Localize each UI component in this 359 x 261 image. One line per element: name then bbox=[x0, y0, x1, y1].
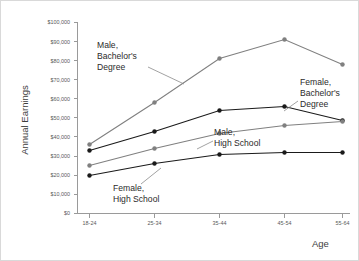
x-tick-label: 55-64 bbox=[336, 220, 350, 226]
annotation-label: Female, bbox=[300, 77, 331, 87]
annotation-label: High School bbox=[113, 194, 159, 204]
y-tick-label: $90,000 bbox=[51, 39, 71, 45]
data-point bbox=[87, 163, 91, 167]
data-point bbox=[87, 173, 91, 177]
data-point bbox=[87, 142, 91, 146]
y-tick-label: $10,000 bbox=[51, 191, 71, 197]
y-tick-label: $20,000 bbox=[51, 172, 71, 178]
data-point bbox=[152, 146, 156, 150]
data-point bbox=[340, 150, 344, 154]
data-point bbox=[87, 148, 91, 152]
series-female-highschool bbox=[87, 150, 344, 177]
annotation-leader-line bbox=[197, 141, 213, 149]
data-point bbox=[152, 161, 156, 165]
x-tick-label: 35-44 bbox=[213, 220, 227, 226]
y-tick-label: $60,000 bbox=[51, 96, 71, 102]
annotation-leader-line bbox=[148, 67, 184, 84]
data-point bbox=[282, 123, 286, 127]
data-point bbox=[152, 100, 156, 104]
annotation-label: Bachelor's bbox=[97, 51, 137, 61]
data-point bbox=[282, 37, 286, 41]
y-axis-group: $100,000 $90,000 $80,000 $70,000 $60,000… bbox=[48, 19, 350, 216]
y-tick-label: $40,000 bbox=[51, 134, 71, 140]
data-point bbox=[340, 62, 344, 66]
annotation-male-bachelors: Male, Bachelor's Degree bbox=[97, 40, 184, 84]
data-point bbox=[282, 150, 286, 154]
annotation-label: Male, bbox=[214, 127, 235, 137]
data-point bbox=[217, 108, 221, 112]
x-tick-label: 18-24 bbox=[83, 220, 97, 226]
annotation-label: High School bbox=[214, 138, 260, 148]
y-tick-label: $50,000 bbox=[51, 115, 71, 121]
annotation-label: Degree bbox=[97, 62, 125, 72]
annotation-label: Female, bbox=[113, 183, 144, 193]
x-tick-label: 25-34 bbox=[148, 220, 162, 226]
y-tick-label: $80,000 bbox=[51, 58, 71, 64]
data-point bbox=[152, 129, 156, 133]
y-tick-label: $0 bbox=[64, 210, 70, 216]
y-tick-label: $70,000 bbox=[51, 77, 71, 83]
data-point bbox=[217, 56, 221, 60]
line-chart: $100,000 $90,000 $80,000 $70,000 $60,000… bbox=[1, 1, 359, 261]
data-point bbox=[217, 152, 221, 156]
x-axis-group: 18-24 25-34 35-44 45-54 55-64 bbox=[83, 214, 350, 227]
data-point bbox=[282, 104, 286, 108]
annotation-leader-line bbox=[141, 168, 161, 184]
annotation-male-highschool: Male, High School bbox=[197, 127, 260, 149]
y-tick-label: $30,000 bbox=[51, 153, 71, 159]
data-point bbox=[340, 119, 344, 123]
annotation-female-bachelors: Female, Bachelor's Degree bbox=[284, 77, 340, 111]
x-tick-label: 45-54 bbox=[278, 220, 292, 226]
annotation-label: Bachelor's bbox=[300, 88, 340, 98]
y-tick-label: $100,000 bbox=[48, 19, 70, 25]
annotation-label: Degree bbox=[300, 99, 328, 109]
chart-container: $100,000 $90,000 $80,000 $70,000 $60,000… bbox=[0, 0, 359, 261]
annotation-female-highschool: Female, High School bbox=[113, 168, 161, 204]
annotation-label: Male, bbox=[97, 40, 118, 50]
y-axis-title: Annual Earnings bbox=[19, 85, 30, 155]
x-axis-title: Age bbox=[312, 238, 329, 249]
